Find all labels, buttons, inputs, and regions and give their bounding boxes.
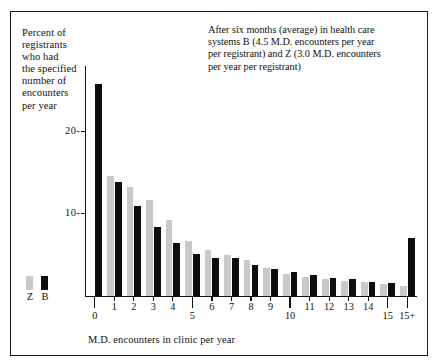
legend-label-z: Z (24, 291, 36, 302)
bar-z (244, 260, 251, 296)
bar-b (330, 278, 337, 296)
bar-b (212, 258, 219, 296)
bar-b (310, 275, 317, 296)
bar-z (263, 268, 270, 296)
bar-z (146, 200, 153, 295)
plot-area: 10-20- 012345678910111213141515+ (0, 0, 437, 361)
legend-swatch-b (41, 276, 48, 290)
bar-b (134, 206, 141, 295)
bar-z (400, 286, 407, 296)
bar-b (271, 269, 278, 295)
bar-group (85, 66, 417, 296)
bar-b (95, 84, 102, 296)
x-tick (407, 296, 408, 308)
bar-b (291, 272, 298, 296)
x-tick (94, 296, 95, 308)
bar-b (349, 279, 356, 295)
bar-z (380, 284, 387, 295)
bar-z (166, 220, 173, 295)
x-tick (387, 296, 388, 308)
bar-z (302, 277, 309, 296)
legend-label-b: B (39, 291, 51, 302)
bar-z (341, 281, 348, 296)
y-tick-label: 20- (40, 125, 80, 136)
bar-z (205, 250, 212, 296)
x-tick (289, 296, 290, 308)
x-tick-label: 15+ (394, 310, 420, 321)
legend-swatch-z (26, 276, 33, 290)
bar-b (154, 227, 161, 296)
x-axis-title: M.D. encounters in clinic per year (88, 334, 235, 345)
bar-z (283, 274, 290, 295)
bar-b (408, 238, 415, 295)
bar-b (388, 283, 395, 295)
bar-z (322, 279, 329, 295)
bar-z (107, 176, 114, 296)
bar-b (193, 254, 200, 296)
bar-b (232, 258, 239, 296)
y-tick-label: 10- (40, 207, 80, 218)
bar-b (252, 265, 259, 295)
bar-z (127, 187, 134, 295)
bar-b (173, 243, 180, 295)
bar-z (224, 255, 231, 296)
x-tick (192, 296, 193, 308)
bar-b (369, 282, 376, 296)
bar-b (115, 182, 122, 295)
bar-z (361, 282, 368, 295)
bar-z (185, 241, 192, 295)
